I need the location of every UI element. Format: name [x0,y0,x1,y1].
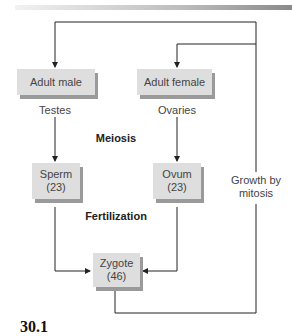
growth-line2: mitosis [222,187,290,200]
growth-line1: Growth by [222,174,290,187]
zygote-count: (46) [107,270,127,283]
sperm-node: Sperm (23) [32,163,80,199]
adult-male-node: Adult male [17,69,95,95]
ovaries-label: Ovaries [147,104,207,117]
growth-by-mitosis-label: Growth by mitosis [222,174,290,200]
adult-female-node: Adult female [137,69,212,95]
meiosis-label: Meiosis [86,132,146,145]
fertilization-label: Fertilization [81,210,151,223]
adult-female-label: Adult female [144,76,205,89]
sperm-label: Sperm [40,168,72,181]
ovum-count: (23) [167,181,187,194]
ovum-node: Ovum (23) [153,163,201,199]
zygote-label: Zygote [100,257,134,270]
adult-male-label: Adult male [30,76,82,89]
ovum-label: Ovum [162,168,191,181]
figure-number: 30.1 [20,318,48,336]
testes-label: Testes [25,104,85,117]
zygote-node: Zygote (46) [93,253,140,287]
sperm-count: (23) [46,181,66,194]
